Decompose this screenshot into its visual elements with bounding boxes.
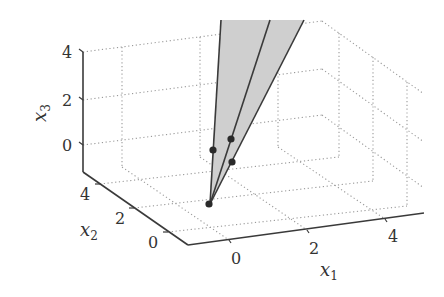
cone-3d-plot: 4 2 0 4 2 0 0 2 4 x1 x2 x3 bbox=[0, 0, 444, 297]
floor-grid bbox=[100, 147, 407, 240]
x1-tick-4: 4 bbox=[388, 227, 398, 246]
x3-tick-labels: 4 2 0 bbox=[62, 43, 72, 155]
x3-tick-4: 4 bbox=[62, 43, 72, 62]
x2-tick-2: 2 bbox=[115, 209, 125, 228]
x2-axis-label: x2 bbox=[80, 219, 98, 243]
x3-axis-label: x3 bbox=[29, 104, 53, 122]
x1-tick-2: 2 bbox=[309, 239, 319, 258]
x3-tick-0: 0 bbox=[62, 136, 72, 155]
x2-tick-0: 0 bbox=[148, 233, 158, 252]
x2-tick-4: 4 bbox=[80, 185, 90, 204]
x1-tick-0: 0 bbox=[231, 249, 241, 268]
x1-axis-label: x1 bbox=[320, 259, 338, 283]
cone bbox=[210, 20, 304, 204]
x3-tick-2: 2 bbox=[62, 91, 72, 110]
x1-tick-labels: 0 2 4 bbox=[231, 227, 398, 268]
right-wall-grid bbox=[322, 21, 424, 206]
